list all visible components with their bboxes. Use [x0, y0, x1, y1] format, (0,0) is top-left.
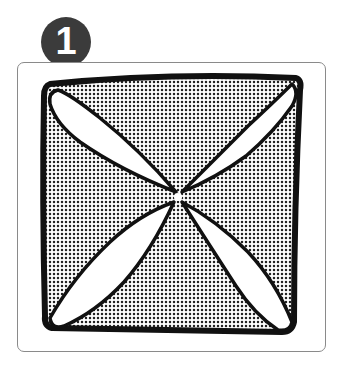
step-number-badge: 1 [41, 17, 91, 67]
step-number: 1 [55, 22, 76, 60]
folded-square-illustration [17, 62, 326, 352]
center-point [174, 193, 182, 201]
